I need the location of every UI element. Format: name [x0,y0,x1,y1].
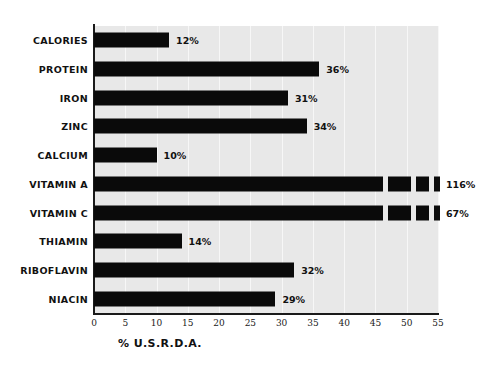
bar [94,176,383,191]
bar-break-segment [434,205,440,220]
x-tick-label: 20 [207,318,231,328]
bar [94,33,169,48]
x-axis-line [93,313,439,315]
bar-break-segment [388,205,411,220]
bar-row: VITAMIN C67% [0,198,500,227]
bar [94,62,319,77]
bar [94,148,157,163]
bar [94,234,182,249]
bar-value-label: 10% [164,150,187,161]
bar-value-label: 67% [446,207,469,218]
bar-row: ZINC34% [0,112,500,141]
bar [94,205,383,220]
bar-row: RIBOFLAVIN32% [0,256,500,285]
bar-value-label: 34% [314,121,337,132]
bar [94,291,275,306]
x-tick-label: 55 [426,318,450,328]
x-tick-label: 5 [113,318,137,328]
bar-row: NIACIN29% [0,284,500,313]
bar-break-segment [388,176,411,191]
bar-value-label: 29% [282,293,305,304]
bar-value-label: 12% [176,35,199,46]
bar-value-label: 14% [189,236,212,247]
bar-row: IRON31% [0,83,500,112]
x-axis-title: % U.S.R.D.A. [0,337,500,350]
bar-break-segment [416,176,429,191]
category-label: VITAMIN A [29,178,88,189]
bar [94,119,307,134]
bar-value-label: 36% [326,64,349,75]
x-tick-label: 35 [301,318,325,328]
category-label: IRON [60,92,88,103]
bar-row: CALCIUM10% [0,141,500,170]
bar-row: CALORIES12% [0,26,500,55]
x-tick-label: 50 [395,318,419,328]
bar-value-label: 116% [446,178,475,189]
x-tick-label: 40 [332,318,356,328]
x-axis-title-text: % U.S.R.D.A. [118,337,202,350]
category-label: THIAMIN [39,236,88,247]
x-tick-label: 15 [176,318,200,328]
category-label: NIACIN [49,293,88,304]
category-label: VITAMIN C [30,207,88,218]
bar [94,90,288,105]
x-tick-label: 25 [238,318,262,328]
category-label: ZINC [61,121,88,132]
bar [94,262,294,277]
bar-value-label: 32% [301,264,324,275]
bar-row: PROTEIN36% [0,55,500,84]
x-tick-label: 10 [145,318,169,328]
category-label: CALORIES [33,35,88,46]
bar-break-segment [416,205,429,220]
x-tick-label: 0 [82,318,106,328]
category-label: PROTEIN [39,64,88,75]
bar-value-label: 31% [295,92,318,103]
category-label: CALCIUM [37,150,88,161]
x-tick-label: 30 [270,318,294,328]
category-label: RIBOFLAVIN [20,264,88,275]
bar-break-segment [434,176,440,191]
bar-row: THIAMIN14% [0,227,500,256]
x-tick-label: 45 [363,318,387,328]
bar-row: VITAMIN A116% [0,170,500,199]
bar-chart: CALORIES12%PROTEIN36%IRON31%ZINC34%CALCI… [0,0,500,369]
